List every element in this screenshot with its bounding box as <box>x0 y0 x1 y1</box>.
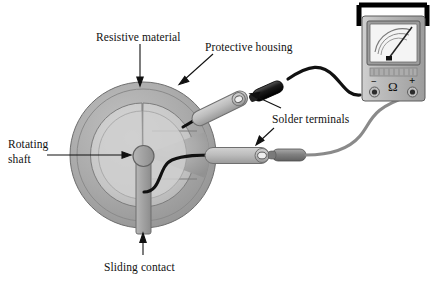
figure-canvas: Resistive material Protective housing So… <box>0 0 433 287</box>
jack-hole-negative <box>372 89 377 94</box>
terminal-eyelet-lower <box>258 152 267 159</box>
arrowhead-solder-lower <box>256 136 264 145</box>
probe-clip-gray <box>268 149 306 161</box>
meter-positive-label: + <box>409 74 415 87</box>
label-protective-housing: Protective housing <box>205 41 293 55</box>
meter-unit-symbol: Ω <box>388 79 398 94</box>
lead-wire-black <box>288 67 360 95</box>
jack-hole-positive <box>410 89 415 94</box>
label-sliding-contact: Sliding contact <box>104 261 175 275</box>
label-rotating-shaft-line2: shaft <box>8 152 31 166</box>
potentiometer-assembly <box>70 82 269 234</box>
label-solder-terminals: Solder terminals <box>272 113 349 127</box>
leader-protective-housing <box>184 54 213 80</box>
solder-terminal-lower <box>205 148 269 164</box>
label-rotating-shaft-line1: Rotating <box>8 137 48 151</box>
meter-needle-pivot <box>386 56 392 61</box>
rotating-shaft <box>133 146 154 167</box>
label-resistive-material: Resistive material <box>96 31 181 45</box>
meter-negative-label: − <box>371 76 377 88</box>
